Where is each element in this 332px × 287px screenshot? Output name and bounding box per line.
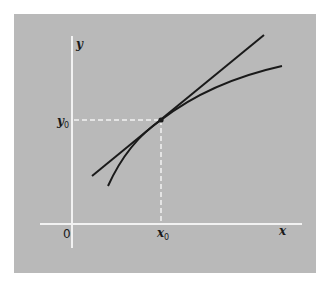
y-axis-label: y xyxy=(75,37,84,51)
tangent-point xyxy=(158,117,163,122)
origin-label: 0 xyxy=(63,227,71,241)
curve xyxy=(108,66,282,186)
svg-text:0: 0 xyxy=(164,233,169,242)
svg-text:0: 0 xyxy=(64,121,69,130)
x0-label: x 0 xyxy=(156,226,169,242)
x-axis-label: x xyxy=(278,224,287,238)
tangent-diagram: y x 0 y 0 x 0 xyxy=(0,0,332,287)
tangent-line xyxy=(92,35,264,176)
y0-label: y 0 xyxy=(56,114,69,130)
